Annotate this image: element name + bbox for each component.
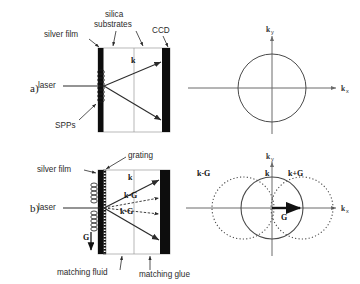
k-minus-G-label-lower: k-G xyxy=(120,207,133,216)
silver-film-leader-b xyxy=(84,170,96,173)
matching-fluid-leader xyxy=(120,256,122,270)
silica-leader-right xyxy=(136,31,143,46)
spps-label: SPPs xyxy=(55,121,75,130)
spps-coil-b xyxy=(91,183,97,231)
kspace-circle-label-k: k xyxy=(265,169,270,178)
G-vector-kspace-label: G xyxy=(281,213,287,222)
ccd-bar-b xyxy=(160,170,170,254)
ccd-bar xyxy=(162,48,170,132)
kx-axis-sub-b: x xyxy=(346,208,349,214)
kspace-circle-label-k-plus-G: k+G xyxy=(288,169,303,178)
grating-teeth xyxy=(104,170,106,254)
silver-film-label-b: silver film xyxy=(37,165,71,174)
silica-label-line2: substrates xyxy=(94,20,132,29)
k-arrow-label-a: k xyxy=(131,56,136,65)
silica-label-line1: silica xyxy=(105,10,124,19)
ccd-label: CCD xyxy=(152,26,170,35)
panel-b: b) xyxy=(30,151,190,279)
laser-label-b: laser xyxy=(38,203,56,212)
ky-axis-sub-b: y xyxy=(271,156,274,162)
silver-film-bar-b xyxy=(98,170,104,254)
panel-a: a) laser k xyxy=(30,10,170,132)
silver-film-leader-a xyxy=(89,39,99,47)
matching-fluid-label: matching fluid xyxy=(57,268,108,277)
figure-spp-kspace-diagram: a) laser k xyxy=(0,0,360,284)
k-ray-upper-a xyxy=(104,62,161,86)
k-minus-G-label-upper: k-G xyxy=(124,191,137,200)
ky-axis-sub-a: y xyxy=(271,29,274,35)
grating-leader xyxy=(106,157,126,169)
laser-label-a: laser xyxy=(38,81,56,90)
panel-b-kspace: G k-G k k+G k x k y xyxy=(186,152,349,256)
silica-leader-left xyxy=(113,31,116,46)
grating-label: grating xyxy=(128,151,153,160)
kx-axis-sub-a: x xyxy=(346,88,349,94)
G-vector-grating-label: G xyxy=(83,233,89,242)
k-ray-lower-a xyxy=(104,86,161,120)
silver-film-label-a: silver film xyxy=(44,30,78,39)
ccd-leader xyxy=(163,36,168,47)
panel-b-apparatus xyxy=(98,170,170,254)
kspace-circle-label-k-minus-G: k-G xyxy=(197,169,210,178)
matching-glue-label: matching glue xyxy=(139,270,190,279)
k-arrow-label-b: k xyxy=(128,173,133,182)
panel-a-kspace: k x k y xyxy=(188,25,349,134)
spps-leader xyxy=(79,104,96,120)
